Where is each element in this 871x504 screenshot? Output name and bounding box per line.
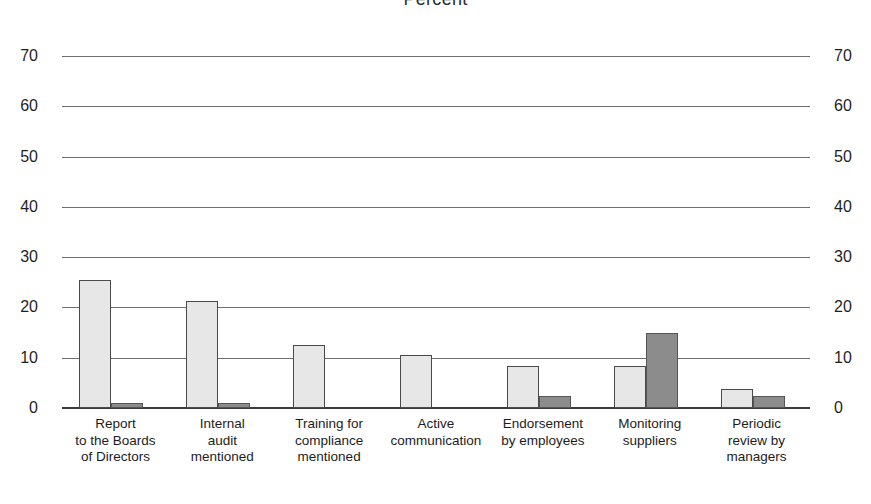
y-tick-left-30: 30	[20, 249, 38, 265]
y-axis-right: 706050403020100	[822, 56, 871, 408]
x-axis-label-6: Periodicreview bymanagers	[694, 416, 819, 466]
y-axis-left: 706050403020100	[0, 56, 50, 408]
y-tick-right-70: 70	[834, 48, 852, 64]
y-tick-right-20: 20	[834, 299, 852, 315]
y-tick-right-0: 0	[834, 400, 843, 416]
percent-bar-chart: Percent 706050403020100 706050403020100 …	[0, 0, 871, 504]
bar-series-dark-5	[646, 333, 678, 408]
y-tick-left-0: 0	[29, 400, 38, 416]
y-tick-left-50: 50	[20, 149, 38, 165]
bar-series-dark-1	[218, 403, 250, 408]
chart-title: Percent	[0, 0, 871, 10]
bar-series-dark-6	[753, 396, 785, 408]
x-label-line: review by	[694, 433, 819, 450]
plot-area	[62, 56, 810, 408]
x-label-line: mentioned	[267, 449, 392, 466]
x-label-line: managers	[694, 449, 819, 466]
y-tick-left-20: 20	[20, 299, 38, 315]
y-tick-right-50: 50	[834, 149, 852, 165]
y-tick-right-30: 30	[834, 249, 852, 265]
y-tick-left-10: 10	[20, 350, 38, 366]
bar-series-light-5	[614, 366, 646, 408]
y-tick-left-60: 60	[20, 98, 38, 114]
y-tick-right-60: 60	[834, 98, 852, 114]
y-tick-right-40: 40	[834, 199, 852, 215]
bar-series-light-6	[721, 389, 753, 408]
x-axis-category-labels: Reportto the Boardsof DirectorsInternala…	[62, 416, 810, 496]
bar-series-light-1	[186, 301, 218, 408]
y-tick-right-10: 10	[834, 350, 852, 366]
x-label-line: Periodic	[694, 416, 819, 433]
bar-series-light-3	[400, 355, 432, 408]
y-tick-left-70: 70	[20, 48, 38, 64]
y-tick-left-40: 40	[20, 199, 38, 215]
bar-series-light-0	[79, 280, 111, 408]
bar-series-light-4	[507, 366, 539, 408]
bars-layer	[62, 56, 810, 408]
bar-series-dark-4	[539, 396, 571, 408]
bar-series-light-2	[293, 345, 325, 408]
bar-series-dark-0	[111, 403, 143, 408]
